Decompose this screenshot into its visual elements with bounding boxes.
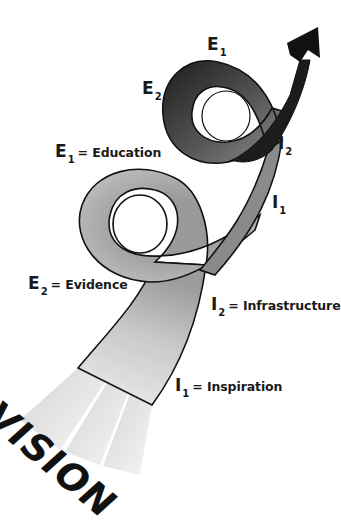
label-subscript: 1 [220, 47, 227, 58]
legend-subscript: 2 [218, 307, 225, 318]
label-letter: I [278, 133, 284, 153]
legend-letter: I [211, 294, 217, 314]
arrow-head-icon [287, 27, 320, 62]
legend-infrastructure: I2= Infrastructure [211, 296, 341, 313]
legend-subscript: 1 [182, 388, 189, 399]
label-letter: E [142, 78, 154, 98]
label-e1-top: E1 [207, 36, 227, 53]
legend-letter: E [55, 141, 67, 161]
upper-loop-hole [202, 91, 250, 141]
legend-text: = Education [78, 145, 162, 160]
legend-letter: E [28, 273, 40, 293]
legend-education: E1= Education [55, 143, 161, 160]
label-i2-side: I2 [278, 135, 292, 152]
legend-evidence: E2= Evidence [28, 275, 128, 292]
label-i1-side: I1 [272, 194, 286, 211]
legend-text: = Evidence [51, 277, 128, 292]
legend-text: = Infrastructure [228, 298, 340, 313]
label-subscript: 2 [285, 146, 292, 157]
legend-text: = Inspiration [192, 379, 282, 394]
legend-letter: I [175, 375, 181, 395]
legend-inspiration: I1= Inspiration [175, 377, 282, 394]
label-e2-top: E2 [142, 80, 162, 97]
label-subscript: 2 [155, 91, 162, 102]
legend-subscript: 2 [41, 286, 48, 297]
lower-loop-hole [113, 195, 167, 253]
label-letter: I [272, 192, 278, 212]
legend-subscript: 1 [68, 154, 75, 165]
label-subscript: 1 [279, 205, 286, 216]
label-letter: E [207, 34, 219, 54]
